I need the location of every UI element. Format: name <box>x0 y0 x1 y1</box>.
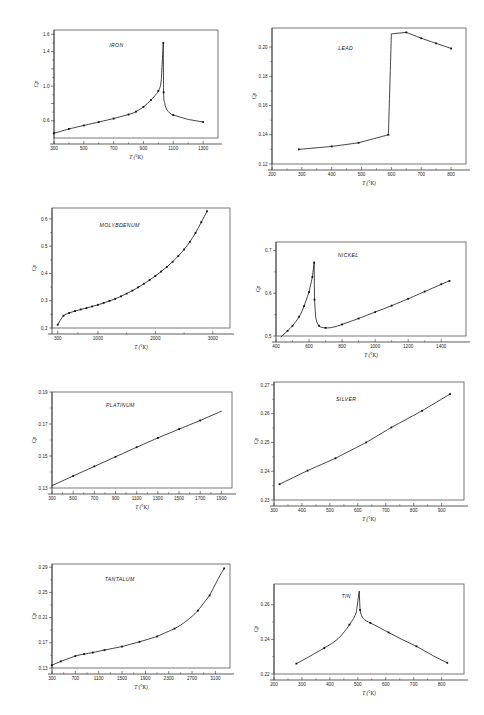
data-marker <box>174 628 176 630</box>
y-tick-label: 0.27 <box>261 383 270 388</box>
data-marker <box>405 31 407 33</box>
data-marker <box>92 652 94 654</box>
data-marker <box>424 291 426 293</box>
plot-frame-tantalum <box>52 564 230 668</box>
data-marker <box>139 641 141 643</box>
x-tick-label: 300 <box>50 146 58 151</box>
data-marker <box>68 128 70 130</box>
data-marker <box>391 305 393 307</box>
x-tick-label: 300 <box>298 682 306 687</box>
axes-platinum: 0.130.150.170.19300500700900110013001500… <box>39 390 236 501</box>
data-marker <box>450 48 452 50</box>
data-curve-tin <box>296 591 447 664</box>
data-marker <box>80 309 82 311</box>
y-tick-label: 0.12 <box>259 162 268 167</box>
x-tick-label: 600 <box>354 508 362 513</box>
data-marker <box>287 330 289 332</box>
x-tick-label: 1700 <box>195 496 206 501</box>
data-marker <box>200 221 202 223</box>
data-marker <box>202 121 204 123</box>
plot-panel-molybdenum: 0.20.30.40.50.6300100020003000MOLYBDENUM… <box>26 202 236 354</box>
y-tick-label: 1.6 <box>43 32 50 37</box>
x-tick-label: 900 <box>112 496 120 501</box>
x-tick-label: 700 <box>382 508 390 513</box>
y-tick-label: 0.6 <box>43 118 50 123</box>
data-marker <box>103 302 105 304</box>
data-marker <box>126 293 128 295</box>
x-tick-label: 2000 <box>150 336 161 341</box>
data-marker <box>303 305 305 307</box>
x-tick-label: 300 <box>54 336 62 341</box>
plot-frame-lead <box>272 28 466 164</box>
data-marker <box>114 298 116 300</box>
y-axis-label: Cp <box>33 81 39 88</box>
plot-frame-nickel <box>276 242 466 336</box>
x-tick-label: 1900 <box>140 676 151 681</box>
y-tick-label: 0.21 <box>39 615 48 620</box>
data-curve-nickel <box>281 263 450 337</box>
x-tick-label: 1900 <box>216 496 227 501</box>
data-marker <box>57 324 59 326</box>
data-marker <box>370 622 372 624</box>
y-tick-label: 0.22 <box>261 672 270 677</box>
data-marker <box>335 457 337 459</box>
y-tick-label: 0.26 <box>261 602 270 607</box>
data-curve-platinum <box>52 411 221 485</box>
axes-lead: 0.120.140.160.180.2020030040050060070080… <box>259 28 470 177</box>
data-marker <box>323 647 325 649</box>
data-marker <box>295 663 297 665</box>
data-marker <box>421 410 423 412</box>
x-tick-label: 400 <box>298 508 306 513</box>
data-marker <box>420 37 422 39</box>
data-marker <box>104 649 106 651</box>
plot-panel-lead: 0.120.140.160.180.2020030040050060070080… <box>246 22 472 190</box>
data-marker <box>131 290 133 292</box>
data-marker <box>115 456 117 458</box>
data-marker <box>358 318 360 320</box>
data-marker <box>374 311 376 313</box>
data-marker <box>314 299 316 301</box>
y-tick-label: 0.24 <box>261 469 270 474</box>
x-tick-label: 600 <box>388 172 396 177</box>
plot-title-lead: LEAD <box>338 45 353 51</box>
y-tick-label: 0.25 <box>39 590 48 595</box>
y-tick-label: 0.7 <box>265 248 272 253</box>
data-curve-silver <box>280 394 450 484</box>
x-tick-label: 200 <box>270 682 278 687</box>
plot-frame-iron <box>54 30 218 138</box>
data-marker <box>359 609 361 611</box>
x-tick-label: 800 <box>338 344 346 349</box>
x-tick-label: 1100 <box>168 146 178 151</box>
data-marker <box>292 325 294 327</box>
x-tick-label: 500 <box>80 146 88 151</box>
plot-title-tin: TIN <box>341 593 350 599</box>
data-marker <box>68 312 70 314</box>
data-marker <box>120 295 122 297</box>
x-tick-label: 2300 <box>164 676 175 681</box>
data-marker <box>143 283 145 285</box>
x-tick-label: 2700 <box>187 676 198 681</box>
axes-iron: 0.61.01.41.630050070090011001300 <box>43 30 222 151</box>
x-tick-label: 1200 <box>403 344 414 349</box>
y-tick-label: 0.17 <box>39 422 48 427</box>
data-marker <box>318 325 320 327</box>
plot-title-platinum: PLATINUM <box>106 402 135 408</box>
x-axis-label: T (°K) <box>134 684 148 691</box>
data-marker <box>74 310 76 312</box>
y-tick-label: 0.4 <box>41 271 48 276</box>
axes-tantalum: 0.130.170.210.250.2930070011001500190023… <box>39 564 234 681</box>
data-marker <box>136 446 138 448</box>
figure-page: 0.61.01.41.630050070090011001300IRONT (°… <box>0 0 484 715</box>
data-marker <box>311 276 313 278</box>
data-curve-iron <box>54 43 203 133</box>
x-axis-label: T (°K) <box>135 504 149 511</box>
y-tick-label: 0.25 <box>261 440 270 445</box>
axes-nickel: 0.50.60.7400600800100012001400 <box>265 242 470 349</box>
data-marker <box>349 624 351 626</box>
x-tick-label: 800 <box>438 682 446 687</box>
x-axis-label: T (°K) <box>362 180 376 187</box>
data-marker <box>109 300 111 302</box>
plot-title-molybdenum: MOLYBDENUM <box>100 222 141 228</box>
y-tick-label: 0.13 <box>39 486 48 491</box>
x-tick-label: 3100 <box>210 676 221 681</box>
